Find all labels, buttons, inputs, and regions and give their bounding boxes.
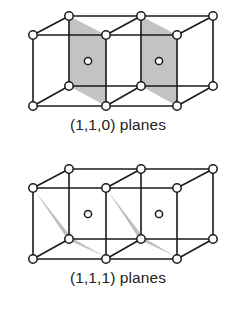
- corner-atom: [65, 82, 73, 90]
- corner-atom: [137, 165, 145, 173]
- edge: [106, 169, 141, 188]
- edge: [33, 169, 69, 188]
- corner-atom: [209, 12, 217, 20]
- corner-atom: [102, 31, 110, 39]
- corner-atom: [173, 255, 181, 263]
- corner-atom: [173, 31, 181, 39]
- lattice-110: [29, 12, 217, 110]
- edge: [177, 169, 213, 188]
- edge: [33, 86, 69, 106]
- edge: [33, 239, 69, 259]
- corner-atom: [102, 102, 110, 110]
- lattice-111: [29, 165, 217, 263]
- corner-atom: [173, 102, 181, 110]
- corner-atom: [102, 255, 110, 263]
- body-center-atom: [155, 210, 162, 217]
- edge: [106, 16, 141, 35]
- edge: [177, 16, 213, 35]
- corner-atom: [209, 235, 217, 243]
- caption-110-planes: (1,1,0) planes: [0, 116, 236, 134]
- corner-atom: [29, 31, 37, 39]
- corner-atom: [29, 102, 37, 110]
- corner-atom: [65, 235, 73, 243]
- corner-atom: [173, 184, 181, 192]
- edge: [177, 86, 213, 106]
- corner-atom: [137, 235, 145, 243]
- edge: [33, 16, 69, 35]
- body-center-atom: [84, 210, 91, 217]
- corner-atom: [102, 184, 110, 192]
- corner-atom: [65, 165, 73, 173]
- edge: [106, 239, 141, 259]
- lattice-diagrams: [0, 0, 236, 310]
- corner-atom: [29, 255, 37, 263]
- body-center-atom: [155, 57, 162, 64]
- corner-atom: [209, 165, 217, 173]
- edge: [177, 239, 213, 259]
- corner-atom: [65, 12, 73, 20]
- body-center-atom: [84, 57, 91, 64]
- edge: [106, 86, 141, 106]
- corner-atom: [137, 12, 145, 20]
- corner-atom: [209, 82, 217, 90]
- corner-atom: [29, 184, 37, 192]
- corner-atom: [137, 82, 145, 90]
- caption-111-planes: (1,1,1) planes: [0, 269, 236, 287]
